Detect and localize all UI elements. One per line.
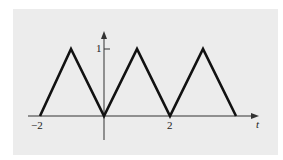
y-axis-arrow-icon	[101, 31, 107, 39]
y-tick-label-1: 1	[96, 43, 102, 54]
x-tick-label-2: 2	[167, 120, 173, 131]
x-tick-label-neg2: −2	[31, 120, 43, 131]
x-axis-label: t	[256, 119, 259, 130]
chart-plot	[0, 0, 283, 160]
triangle-wave-line	[40, 49, 236, 116]
